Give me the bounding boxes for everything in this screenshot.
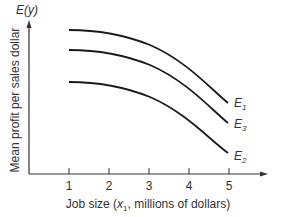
x-axis-label: Job size (x1, millions of dollars) [66, 197, 231, 213]
curve-e1 [69, 30, 228, 103]
y-axis-arrow-icon [27, 20, 32, 28]
y-axis-label: Mean profit per sales dollar [8, 28, 22, 173]
x-ticks [69, 168, 229, 174]
x-tick-label: 2 [106, 179, 113, 193]
y-axis-symbol: E(y) [16, 3, 38, 17]
x-tick-label: 3 [146, 179, 153, 193]
curve-e2 [69, 82, 228, 153]
chart-canvas: 1 2 3 4 5 Job size (x1, millions of doll… [0, 0, 281, 217]
label-e3: E3 [234, 117, 247, 133]
x-tick-label: 4 [186, 179, 193, 193]
label-e2: E2 [234, 149, 247, 165]
x-axis-arrow-icon [260, 172, 268, 177]
x-tick-label: 1 [66, 179, 73, 193]
curve-e3 [69, 50, 228, 123]
x-tick-label: 5 [226, 179, 233, 193]
label-e1: E1 [234, 96, 246, 112]
x-tick-labels: 1 2 3 4 5 [66, 179, 233, 193]
